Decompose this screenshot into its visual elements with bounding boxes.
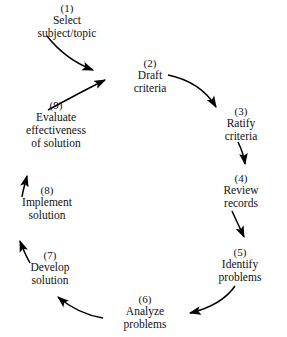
node-9-label-line-1: Evaluate [6, 111, 106, 124]
arrow-1-to-2 [47, 36, 93, 70]
node-2-label-line-2: criteria [108, 82, 192, 95]
step-number-9: (9) [6, 99, 106, 111]
node-5-label-line-1: Identify [196, 258, 284, 271]
step-number-1: (1) [12, 2, 122, 14]
process-node-6: (6) Analyze problems [94, 293, 196, 331]
process-node-9: (9) Evaluate effectiveness of solution [6, 99, 106, 150]
process-node-7: (7) Develop solution [4, 249, 96, 287]
node-9-label-line-3: of solution [6, 137, 106, 150]
arrow-4-to-5 [232, 211, 244, 237]
node-2-label-line-1: Draft [108, 69, 192, 82]
node-7-label-line-2: solution [4, 274, 96, 287]
process-node-4: (4) Review records [199, 172, 283, 210]
node-4-label-line-1: Review [199, 184, 283, 197]
process-node-1: (1) Select subject/topic [12, 2, 122, 40]
node-3-label-line-1: Ratify [199, 117, 283, 130]
step-number-8: (8) [0, 184, 94, 196]
node-4-label-line-2: records [199, 197, 283, 210]
process-node-8: (8) Implement solution [0, 184, 94, 222]
node-7-label-line-1: Develop [4, 261, 96, 274]
step-number-2: (2) [108, 57, 192, 69]
arrow-5-to-6 [190, 286, 235, 313]
step-number-5: (5) [196, 246, 284, 258]
node-1-label-line-1: Select [12, 14, 122, 27]
node-3-label-line-2: criteria [199, 130, 283, 143]
process-node-3: (3) Ratify criteria [199, 105, 283, 143]
step-number-4: (4) [199, 172, 283, 184]
process-cycle-diagram: (1) Select subject/topic (2) Draft crite… [0, 0, 287, 337]
node-1-label-line-2: subject/topic [12, 27, 122, 40]
process-node-5: (5) Identify problems [196, 246, 284, 284]
step-number-7: (7) [4, 249, 96, 261]
process-node-2: (2) Draft criteria [108, 57, 192, 95]
node-8-label-line-2: solution [0, 209, 94, 222]
node-8-label-line-1: Implement [0, 196, 94, 209]
arrow-3-to-4 [238, 142, 245, 164]
step-number-6: (6) [94, 293, 196, 305]
step-number-3: (3) [199, 105, 283, 117]
node-6-label-line-1: Analyze [94, 305, 196, 318]
node-6-label-line-2: problems [94, 318, 196, 331]
node-9-label-line-2: effectiveness [6, 124, 106, 137]
node-5-label-line-2: problems [196, 271, 284, 284]
